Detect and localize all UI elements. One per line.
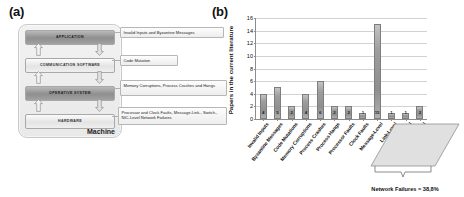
network-failures-caption: Network Failures = 38,8% xyxy=(345,186,464,192)
y-tick-label: 10 xyxy=(247,53,253,59)
bar-slot: 15 xyxy=(370,18,384,119)
bar[interactable]: 4 xyxy=(302,94,309,119)
arrow-pair-3 xyxy=(25,99,113,113)
bar-value-label: 1 xyxy=(390,110,392,115)
arrow-up-icon xyxy=(34,71,43,84)
bar-slot: 1 xyxy=(384,18,398,119)
stack-layer-label: HARDWARE xyxy=(58,120,82,124)
bar-value-label: 1 xyxy=(362,110,364,115)
bar-value-label: 1 xyxy=(404,110,406,115)
y-tick-mark xyxy=(254,119,256,120)
stack-layer-hardware: HARDWARE xyxy=(25,114,115,129)
bar-value-label: 2 xyxy=(333,110,335,115)
bar-chart: Papers in the current literature 0246810… xyxy=(225,10,455,197)
arrow-down-icon xyxy=(95,71,104,84)
bar-value-label: 6 xyxy=(319,110,321,115)
y-tick-label: 8 xyxy=(250,66,253,72)
bar[interactable]: 2 xyxy=(331,106,338,119)
y-tick-label: 6 xyxy=(250,78,253,84)
bar[interactable]: 2 xyxy=(416,106,423,119)
bar-slot: 1 xyxy=(399,18,413,119)
arrow-up-icon xyxy=(34,99,43,112)
stack-layer-label: OPERATIVE SYSTEM xyxy=(49,92,91,96)
bar[interactable]: 6 xyxy=(317,81,324,119)
callout-os-faults: Memory Corruptions, Process Crashes and … xyxy=(120,80,227,96)
x-axis-labels: Invalid InputsByzantine MessagesCode Mut… xyxy=(255,121,427,183)
bar-slot: 4 xyxy=(299,18,313,119)
panel-a-label: (a) xyxy=(9,4,24,19)
stack-layer-label: COMMUNICATION SOFTWARE xyxy=(40,64,100,68)
bar[interactable]: 2 xyxy=(345,106,352,119)
y-axis-title-wrapper: Papers in the current literature xyxy=(229,10,241,130)
bar[interactable]: 2 xyxy=(288,106,295,119)
arrow-pair-2 xyxy=(25,71,113,85)
bar-slot: 5 xyxy=(270,18,284,119)
bar[interactable]: 15 xyxy=(374,24,381,119)
machine-label: Machine xyxy=(87,128,115,135)
arrow-down-icon xyxy=(95,99,104,112)
y-tick-label: 12 xyxy=(247,40,253,46)
bar-value-label: 5 xyxy=(276,110,278,115)
y-axis-title: Papers in the current literature xyxy=(227,18,237,122)
arrow-up-icon xyxy=(34,43,43,56)
plot-area: 0246810121416 4524622115112 xyxy=(255,18,427,120)
callout-hardware-faults: Processor and Clock Faults, Message-Link… xyxy=(118,107,227,125)
bar-slot: 6 xyxy=(313,18,327,119)
bar-value-label: 2 xyxy=(290,110,292,115)
arrow-down-icon xyxy=(95,43,104,56)
bar-slot: 1 xyxy=(356,18,370,119)
bar-slot: 2 xyxy=(327,18,341,119)
y-tick-label: 4 xyxy=(250,91,253,97)
bar-value-label: 4 xyxy=(262,110,264,115)
bar-value-label: 2 xyxy=(347,110,349,115)
y-tick-label: 14 xyxy=(247,28,253,34)
bar-slot: 4 xyxy=(256,18,270,119)
callout-communication-faults: Code Mutation xyxy=(120,55,178,66)
stack-layer-label: APPLICATION xyxy=(56,36,84,40)
y-tick-label: 0 xyxy=(250,116,253,122)
arrow-pair-1 xyxy=(25,43,113,57)
bar-slot: 2 xyxy=(285,18,299,119)
bar-value-label: 15 xyxy=(375,110,380,115)
y-tick-label: 16 xyxy=(247,15,253,21)
bar-value-label: 2 xyxy=(419,110,421,115)
bar-value-label: 4 xyxy=(305,110,307,115)
bar-slot: 2 xyxy=(413,18,427,119)
bar[interactable]: 5 xyxy=(274,87,281,119)
y-tick-label: 2 xyxy=(250,103,253,109)
bar-slot: 2 xyxy=(342,18,356,119)
machine-container: APPLICATION COMMUNICATION SOFTWARE xyxy=(18,24,122,138)
bar-series: 4524622115112 xyxy=(256,18,427,119)
bar[interactable]: 4 xyxy=(260,94,267,119)
callout-application-faults: Invalid Inputs and Byzantine Messages xyxy=(120,27,224,38)
